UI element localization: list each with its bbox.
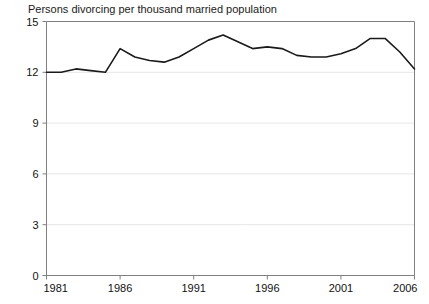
y-tick-label-12: 12 [26,66,38,78]
x-axis-labels: 198119861991199620012006 [44,282,418,294]
data-series-group [47,35,415,72]
y-tick-label-15: 15 [26,16,38,28]
y-axis-labels: 03691215 [26,16,38,282]
gridlines-group [47,72,415,224]
x-tick-label-1981: 1981 [44,282,68,294]
y-tick-label-0: 0 [32,270,38,282]
y-tick-label-3: 3 [32,219,38,231]
x-tick-label-2006: 2006 [393,282,417,294]
x-tick-label-1986: 1986 [108,282,132,294]
axes-group [47,22,415,276]
y-tick-label-6: 6 [32,168,38,180]
tick-marks-group [43,22,415,280]
x-tick-label-1991: 1991 [181,282,205,294]
y-tick-label-9: 9 [32,117,38,129]
x-tick-label-2001: 2001 [329,282,353,294]
divorce-rate-line [47,35,415,72]
chart-plot-area: 03691215 198119861991199620012006 [0,0,429,304]
x-tick-label-1996: 1996 [255,282,279,294]
divorce-rate-chart: Persons divorcing per thousand married p… [0,0,429,304]
